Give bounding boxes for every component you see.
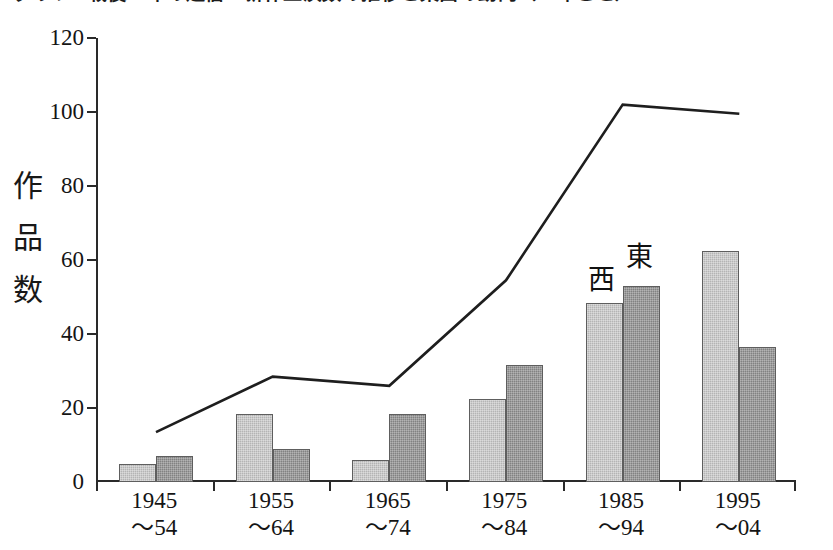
x-category-label-line1: 1965 xyxy=(365,488,411,513)
chart-title: グラフ1 戦後60年の通信・新作上演数の推移と東西の動向（10年ごと） xyxy=(14,0,829,5)
x-category-label-line2: ～54 xyxy=(96,514,213,541)
x-category-label: 1955～64 xyxy=(213,487,330,541)
series-label-west: 西 xyxy=(588,267,615,294)
x-category-label: 1965～74 xyxy=(329,487,446,541)
y-tick-label: 100 xyxy=(32,100,84,123)
y-axis-tick-labels: 020406080100120 xyxy=(22,0,84,550)
x-category-label: 1985～94 xyxy=(563,487,680,541)
x-category-label-line1: 1995 xyxy=(715,488,761,513)
y-tick-label: 40 xyxy=(32,322,84,345)
x-category-label: 1975～84 xyxy=(446,487,563,541)
bar-west xyxy=(469,399,506,482)
y-tick-label: 80 xyxy=(32,174,84,197)
bar-east xyxy=(156,456,193,482)
y-axis-line xyxy=(96,38,98,482)
y-tick-label: 0 xyxy=(32,470,84,493)
y-tick-mark xyxy=(87,111,96,113)
bar-east xyxy=(739,347,776,482)
x-category-label-line2: ～84 xyxy=(446,514,563,541)
y-tick-label: 60 xyxy=(32,248,84,271)
x-category-label-line2: ～04 xyxy=(679,514,796,541)
x-category-label-line2: ～74 xyxy=(329,514,446,541)
series-label-east: 東 xyxy=(626,244,653,271)
bar-east xyxy=(506,365,543,482)
x-category-label: 1995～04 xyxy=(679,487,796,541)
bar-west xyxy=(352,460,389,482)
line-series-layer xyxy=(96,38,796,482)
bar-west xyxy=(586,303,623,482)
y-tick-label: 20 xyxy=(32,396,84,419)
x-axis-category-labels: 1945～541955～641965～741975～841985～941995～… xyxy=(96,487,796,547)
x-category-label-line1: 1955 xyxy=(248,488,294,513)
x-category-label-line2: ～94 xyxy=(563,514,680,541)
bar-east xyxy=(273,449,310,482)
y-tick-mark xyxy=(87,333,96,335)
bar-west xyxy=(236,414,273,482)
y-tick-mark xyxy=(87,259,96,261)
x-category-label-line2: ～64 xyxy=(213,514,330,541)
y-tick-label: 120 xyxy=(32,26,84,49)
x-category-label-line1: 1945 xyxy=(131,488,177,513)
plot-area: 西 東 xyxy=(96,38,796,482)
x-category-label-line1: 1985 xyxy=(598,488,644,513)
y-tick-mark xyxy=(87,37,96,39)
chart-container: グラフ1 戦後60年の通信・新作上演数の推移と東西の動向（10年ごと） 作 品 … xyxy=(0,0,833,550)
y-tick-mark xyxy=(87,407,96,409)
bar-west xyxy=(119,464,156,483)
x-category-label: 1945～54 xyxy=(96,487,213,541)
bar-east xyxy=(389,414,426,482)
x-category-label-line1: 1975 xyxy=(481,488,527,513)
bar-east xyxy=(623,286,660,482)
bar-west xyxy=(702,251,739,482)
y-tick-mark xyxy=(87,185,96,187)
